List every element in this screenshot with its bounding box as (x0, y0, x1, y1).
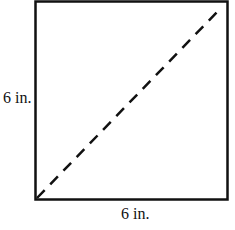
left-side-label: 6 in. (3, 89, 31, 107)
bottom-side-label: 6 in. (121, 205, 149, 223)
square-diagram (0, 0, 235, 230)
diagonal-dashed-line (37, 8, 221, 198)
